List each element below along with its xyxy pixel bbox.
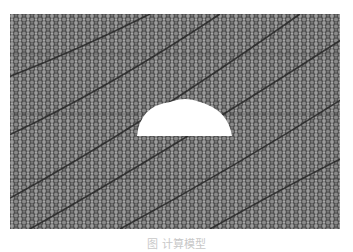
figure-caption: 图 计算模型 [0,238,353,252]
particle-figure [10,14,340,229]
particle-pattern [10,14,340,229]
